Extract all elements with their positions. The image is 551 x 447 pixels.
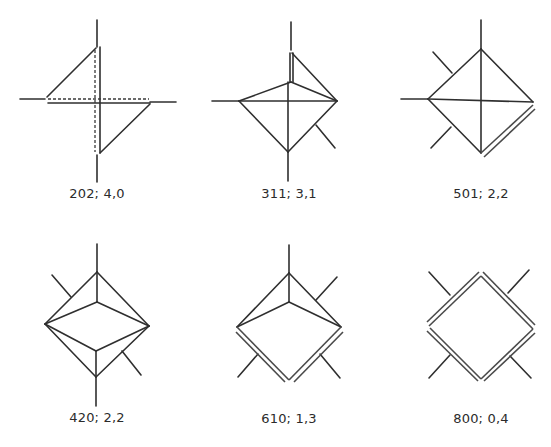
figure-label-420: 420; 2,2 [37,410,157,425]
figure-label-311: 311; 3,1 [229,186,349,201]
figure-202 [20,20,176,182]
figure-label-202: 202; 4,0 [37,186,157,201]
figure-420 [45,244,149,406]
figure-501 [401,20,535,157]
figure-label-800: 800; 0,4 [421,411,541,426]
vertex-figures-drawing [0,0,551,447]
figure-label-610: 610; 1,3 [229,411,349,426]
figure-610 [236,245,343,382]
figure-800 [427,270,535,381]
figure-311 [212,22,337,181]
figure-label-501: 501; 2,2 [421,186,541,201]
